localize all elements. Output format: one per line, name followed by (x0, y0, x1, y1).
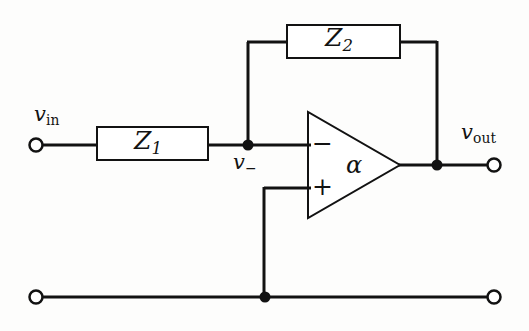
label-v-in: vin (34, 104, 60, 125)
schematic-canvas (0, 0, 529, 331)
label-z2-base: Z (325, 23, 342, 52)
label-v-out-subscript: out (473, 130, 496, 146)
label-noninverting-input-sign: + (312, 174, 333, 199)
label-z2: Z2 (325, 25, 353, 50)
label-v-out-base: v (461, 120, 473, 144)
terminal-ground-right (488, 291, 501, 304)
terminal-output (488, 159, 501, 172)
wire-group (42, 41, 494, 297)
label-v-minus-base: v (233, 150, 245, 174)
label-z1: Z1 (134, 128, 162, 153)
label-z1-base: Z (134, 126, 151, 155)
label-z1-subscript: 1 (151, 139, 162, 158)
terminal-ground-left (30, 291, 43, 304)
junction-dot-v-minus-node (243, 140, 254, 151)
junction-dot-output-node (432, 160, 443, 171)
label-v-in-base: v (34, 102, 46, 126)
circuit-diagram-figure: vin vout v− Z1 Z2 α − + (0, 0, 529, 331)
label-v-out: vout (461, 122, 496, 143)
label-gain-alpha: α (346, 153, 362, 177)
terminal-input (30, 139, 43, 152)
label-z2-subscript: 2 (342, 36, 353, 55)
label-v-minus: v− (233, 152, 257, 173)
junction-dot-ground-node (260, 292, 271, 303)
label-inverting-input-sign: − (312, 131, 333, 156)
label-v-minus-subscript: − (245, 160, 257, 176)
label-v-in-subscript: in (46, 112, 60, 128)
